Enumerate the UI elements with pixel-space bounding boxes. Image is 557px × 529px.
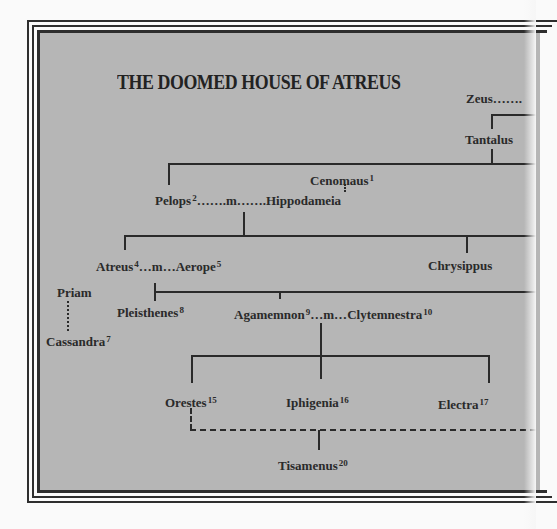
node-chrysippus: Chrysippus [428,259,492,273]
node-pleisthenes-name: Pleisthenes [117,305,178,320]
link-zeus-tantalus-v [491,114,493,129]
link-to-pelops [168,163,170,185]
node-electra: Electra17 [438,395,488,412]
node-tantalus: Tantalus [465,133,513,147]
node-electra-name: Electra [438,397,478,412]
link-to-orestes [191,355,193,383]
marriage-atreus: …m… [139,259,176,274]
line-pelops-children [124,235,536,237]
footnote-pleisthenes: 8 [179,305,184,315]
marriage-pelops: …….m……. [197,193,266,208]
link-to-electra [488,355,490,383]
link-pelops-children [243,212,245,236]
node-atreus: Atreus [96,259,133,274]
link-to-iphigenia [320,355,322,379]
footnote-clytemnestra: 10 [423,307,432,317]
node-priam: Priam [57,286,92,300]
line-atreus-children [154,291,536,293]
link-priam-cassandra [67,301,69,331]
node-clytemnestra: Clytemnestra [347,307,422,322]
link-to-agamemnon [279,291,281,299]
node-agamemnon-marriage: Agamemnon9…m…Clytemnestra10 [234,305,432,322]
node-agamemnon: Agamemnon [234,307,305,322]
node-iphigenia-name: Iphigenia [286,395,339,410]
node-zeus-dots: ……. [493,91,522,106]
link-agamemnon-children [320,323,322,356]
link-to-tisamenus [318,430,320,450]
line-orestes-marriage [190,429,536,431]
footnote-orestes: 15 [208,395,217,405]
node-iphigenia: Iphigenia16 [286,393,349,410]
marriage-agamemnon: …m… [310,307,347,322]
diagram-title: THE DOOMED HOUSE OF ATREUS [117,70,401,95]
node-oenomaus-name: Cenomaus [310,173,369,188]
link-orestes-marriage [190,408,192,430]
line-agamemnon-children [191,355,490,357]
node-aerope: Aerope [176,259,216,274]
footnote-tisamenus: 20 [339,458,348,468]
node-tisamenus: Tisamenus20 [278,456,348,473]
link-tantalus-down [491,149,493,164]
node-pelops: Pelops [155,193,191,208]
node-cassandra: Cassandra7 [46,332,111,349]
link-to-atreus [124,235,126,250]
node-hippodameia: Hippodameia [266,193,341,208]
node-zeus: Zeus……. [466,92,522,106]
line-tantalus-children [168,163,536,165]
footnote-electra: 17 [479,397,488,407]
footnote-iphigenia: 16 [340,395,349,405]
link-oenomaus-hippodameia [344,184,346,192]
node-atreus-marriage: Atreus4…m…Aerope5 [96,257,221,274]
page-edge [524,0,536,529]
node-tisamenus-name: Tisamenus [278,458,338,473]
footnote-cassandra: 7 [106,334,111,344]
node-cassandra-name: Cassandra [46,334,105,349]
node-pelops-marriage: Pelops2…….m…….Hippodameia [155,191,341,208]
link-to-chrysippus [466,235,468,253]
footnote-aerope: 5 [217,259,222,269]
footnote-oenomaus: 1 [370,173,375,183]
node-zeus-name: Zeus [466,91,493,106]
node-orestes-name: Orestes [165,395,207,410]
node-pleisthenes: Pleisthenes8 [117,303,184,320]
node-oenomaus: Cenomaus1 [310,171,374,188]
link-to-pleisthenes [154,283,156,301]
